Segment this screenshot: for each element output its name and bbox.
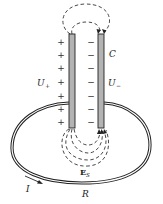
svg-text:−: − (87, 104, 95, 114)
svg-text:+: + (57, 91, 65, 101)
capacitor-discharge-diagram: + + + + + + + − − − − − − − C U + U − E … (0, 0, 163, 204)
svg-text:−: − (87, 37, 95, 47)
svg-text:−: − (87, 77, 95, 87)
minus-signs: − − − − − − − (87, 37, 95, 127)
u-minus-label: U − (108, 78, 121, 89)
svg-text:−: − (116, 82, 121, 89)
svg-text:S: S (86, 172, 90, 178)
negative-plate (98, 34, 104, 128)
u-plus-label: U + (37, 78, 50, 89)
svg-text:−: − (87, 117, 95, 127)
capacitor-label: C (109, 49, 116, 59)
svg-text:+: + (57, 117, 65, 127)
arrowheads-bottom (97, 129, 107, 134)
svg-text:+: + (57, 50, 65, 60)
svg-text:−: − (87, 50, 95, 60)
arrowheads-top (97, 29, 107, 34)
svg-text:U: U (108, 78, 116, 88)
current-label: I (25, 184, 30, 194)
svg-text:+: + (57, 37, 65, 47)
svg-text:+: + (57, 77, 65, 87)
resistor-label: R (81, 189, 89, 199)
svg-text:+: + (57, 104, 65, 114)
plus-signs: + + + + + + + (57, 37, 65, 127)
svg-text:U: U (37, 78, 45, 88)
positive-plate (69, 34, 75, 128)
svg-text:+: + (45, 82, 50, 89)
field-label: E S (80, 167, 90, 178)
svg-text:+: + (57, 63, 65, 73)
svg-text:−: − (87, 91, 95, 101)
svg-text:−: − (87, 63, 95, 73)
field-lines-bottom (62, 129, 109, 166)
